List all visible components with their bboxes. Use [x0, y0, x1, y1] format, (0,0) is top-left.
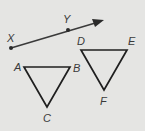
- point-x: [9, 46, 13, 50]
- arrowhead-icon: [92, 19, 104, 27]
- label-d: D: [77, 35, 85, 47]
- point-y: [66, 28, 70, 32]
- label-c: C: [43, 112, 51, 124]
- label-a: A: [13, 61, 21, 73]
- triangle-def: D E F: [77, 35, 136, 107]
- triangle-abc-shape: [24, 67, 70, 107]
- triangle-abc: A B C: [13, 61, 80, 124]
- label-y: Y: [63, 13, 71, 25]
- geometry-figure: X Y A B C D E F: [0, 0, 145, 131]
- figure-canvas: X Y A B C D E F: [0, 0, 145, 131]
- label-x: X: [6, 32, 15, 44]
- ray-xy: X Y: [6, 13, 104, 50]
- label-e: E: [128, 35, 136, 47]
- label-f: F: [100, 95, 108, 107]
- triangle-def-shape: [81, 50, 127, 90]
- label-b: B: [73, 62, 80, 74]
